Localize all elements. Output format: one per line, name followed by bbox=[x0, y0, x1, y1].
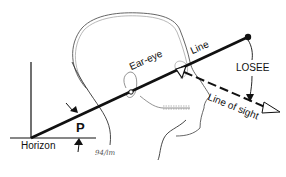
artist-signature: 94/lm bbox=[95, 150, 115, 157]
jaw-outline bbox=[140, 96, 190, 108]
p-arrow-bottom-shaft bbox=[78, 144, 79, 152]
ear-eye-line bbox=[31, 37, 248, 138]
ear-eye-line-endpoint bbox=[245, 34, 251, 40]
teeth-line bbox=[163, 106, 190, 109]
horizon-label: Horizon bbox=[21, 141, 55, 151]
p-angle-label: P bbox=[76, 121, 85, 134]
diagram-canvas: Horizon P Ear-eye Line LOSEE Line of sig… bbox=[0, 0, 286, 177]
losee-arc-lower bbox=[250, 76, 252, 96]
line-of-sight-arrowhead bbox=[262, 102, 280, 113]
neck-front-outline bbox=[158, 120, 186, 160]
losee-arc-upper bbox=[248, 40, 252, 60]
p-arrow-bottom-head bbox=[74, 138, 83, 145]
losee-label: LOSEE bbox=[236, 63, 269, 73]
losee-arrowhead bbox=[246, 94, 254, 102]
skull-outline-inner bbox=[75, 16, 187, 90]
ear-point bbox=[129, 90, 133, 94]
